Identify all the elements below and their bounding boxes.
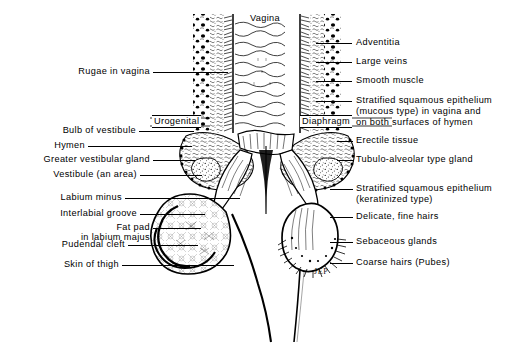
label-hymen: Hymen — [0, 140, 85, 151]
vaginal-lumen-rugae — [234, 14, 300, 132]
label-labium-minus: Labium minus — [0, 192, 122, 203]
leader-large-veins — [316, 62, 352, 63]
label-stratified-squamous-keratinized-line1: Stratified squamous epithelium — [356, 183, 492, 194]
label-sebaceous-glands: Sebaceous glands — [356, 236, 437, 247]
label-pudendal-cleft: Pudendal cleft — [0, 239, 125, 250]
leader-adventitia — [316, 43, 352, 44]
label-stratified-squamous-mucous-line2: (mucous type) in vagina and — [356, 106, 481, 117]
label-vagina: Vagina — [215, 13, 315, 24]
label-interlabial-groove: Interlabial groove — [0, 208, 137, 219]
label-stratified-squamous-mucous-line3: on both surfaces of hymen — [356, 117, 473, 128]
label-greater-vestibular-gland: Greater vestibular gland — [0, 154, 150, 165]
label-diaphragm: Diaphragm — [300, 115, 352, 128]
leader-hymen — [88, 146, 192, 147]
leader-erectile — [337, 141, 353, 142]
label-stratified-squamous-keratinized-line2: (keratinized type) — [356, 194, 433, 205]
leader-vestibule — [140, 175, 202, 176]
label-tubulo-alveolar-type-gland: Tubulo-alveolar type gland — [356, 154, 473, 165]
leader-labium-minus — [125, 198, 240, 199]
label-urogenital: Urogenital — [152, 115, 201, 128]
leader-thigh — [122, 265, 234, 266]
leader-rugae — [153, 72, 228, 73]
artist-signature: JEP — [314, 267, 328, 276]
label-erectile-tissue: Erectile tissue — [356, 135, 418, 146]
leader-smooth-muscle — [316, 81, 352, 82]
label-smooth-muscle: Smooth muscle — [356, 75, 424, 86]
label-skin-of-thigh: Skin of thigh — [0, 259, 119, 270]
leader-bulb — [139, 131, 194, 132]
leader-tubulo — [337, 160, 353, 161]
anatomical-figure: Vagina Urogenital Diaphragm Rugae in vag… — [0, 0, 527, 346]
leader-groove — [140, 214, 205, 215]
label-stratified-squamous-mucous-line1: Stratified squamous epithelium — [356, 95, 492, 106]
leader-gvg — [153, 160, 195, 161]
label-adventitia: Adventitia — [356, 37, 400, 48]
leader-fat-pad — [153, 228, 201, 229]
label-rugae-in-vagina: Rugae in vagina — [0, 66, 150, 77]
leader-sebaceous — [330, 242, 353, 243]
label-large-veins: Large veins — [356, 56, 407, 67]
leader-ssq-kerat — [330, 189, 353, 190]
labium-majus-left — [151, 194, 231, 274]
label-vestibule-an-area: Vestibule (an area) — [0, 169, 137, 180]
leader-fine-hairs — [330, 217, 353, 218]
leader-coarse-hairs — [330, 263, 353, 264]
labium-majus-right — [278, 203, 346, 278]
label-delicate-fine-hairs: Delicate, fine hairs — [356, 211, 439, 222]
label-coarse-hairs-pubes: Coarse hairs (Pubes) — [356, 257, 450, 268]
leader-cleft — [128, 245, 198, 246]
label-bulb-of-vestibule: Bulb of vestibule — [0, 125, 136, 136]
leader-ssq-mucous — [316, 101, 352, 102]
